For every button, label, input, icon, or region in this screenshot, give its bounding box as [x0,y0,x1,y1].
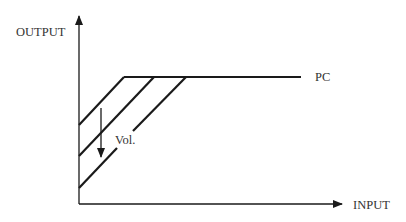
ramp-line-3-upper [133,77,186,131]
x-axis-label: INPUT [353,198,390,212]
pc-label: PC [315,70,330,84]
vol-label: Vol. [115,133,135,147]
output-input-diagram: OUTPUT INPUT PC Vol. [0,0,406,222]
ramp-line-3-lower [79,148,117,188]
y-axis-label: OUTPUT [16,25,66,39]
